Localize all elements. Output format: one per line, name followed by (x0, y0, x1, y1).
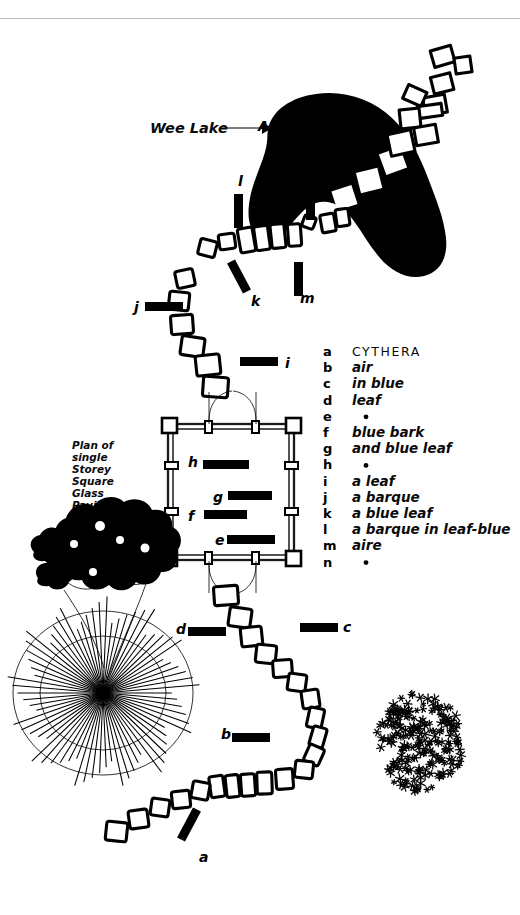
path-stone (105, 821, 128, 842)
legend-letter-i: i (323, 474, 327, 489)
marker-label-d: d (176, 621, 187, 637)
legend-letter-c: c (323, 376, 331, 391)
legend-letter-d: d (323, 393, 332, 408)
door-jamb (252, 421, 259, 433)
marker-label-c: c (343, 619, 352, 635)
legend-letter-b: b (323, 360, 332, 375)
marker-bar-i (240, 357, 278, 366)
pavilion-corner-post (286, 418, 301, 433)
path-stone (275, 768, 293, 789)
pavilion-mullion (285, 462, 298, 469)
marker-label-j: j (132, 299, 139, 315)
legend-letter-l: l (323, 522, 327, 537)
path-stone (218, 233, 236, 250)
wee-lake-label: Wee Lake (150, 120, 228, 136)
marker-bar-l (234, 194, 243, 228)
legend-text-g: and blue leaf (352, 440, 454, 456)
path-stone (257, 772, 273, 795)
sunburst-hub (96, 686, 110, 700)
legend-letter-h: h (323, 457, 332, 472)
shrub-lobe (122, 515, 142, 535)
shrub-lobe (115, 555, 137, 577)
plan-note-line-2: Storey (72, 463, 112, 475)
legend-letter-k: k (323, 506, 332, 521)
legend-text-l: a barque in leaf-blue (352, 521, 511, 537)
marker-bar-n (306, 186, 315, 220)
path-stone (270, 223, 286, 248)
path-stone (228, 607, 252, 629)
shrub-negative (70, 540, 78, 548)
marker-bar-c (300, 623, 338, 632)
path-stone (174, 268, 195, 288)
plan-note-line-4: Glass (72, 487, 104, 499)
legend-letter-f: f (323, 425, 329, 440)
marker-label-n: n (292, 185, 302, 201)
legend-text-j: a barque (352, 489, 420, 505)
path-stone (387, 130, 415, 157)
pavilion-mullion (165, 462, 178, 469)
marker-bar-d (188, 627, 226, 636)
legend-text-m: aire (352, 537, 382, 553)
marker-bar-h (203, 460, 249, 469)
door-jamb (252, 552, 259, 564)
path-stone (294, 760, 314, 779)
legend-text-b: air (352, 359, 374, 375)
door-jamb (205, 421, 212, 433)
marker-label-e: e (215, 532, 225, 548)
marker-bar-e (227, 535, 275, 544)
legend-letter-a: a (323, 344, 332, 359)
plan-note-line-1: single (72, 451, 108, 463)
marker-label-i: i (285, 355, 290, 371)
path-stone (195, 354, 221, 376)
marker-label-a: a (199, 849, 208, 865)
legend-letter-j: j (322, 490, 327, 505)
path-stone (335, 208, 350, 227)
legend-dot-h (364, 463, 369, 468)
site-plan-svg: Wee Lake A (0, 0, 520, 915)
path-stone (430, 45, 455, 67)
path-stone (197, 238, 217, 258)
shrub-negative (116, 536, 124, 544)
path-stone (191, 781, 211, 801)
marker-bar-j (145, 302, 183, 311)
path-stone (213, 585, 238, 606)
path-stone (240, 774, 256, 797)
pavilion-corner-post (162, 418, 177, 433)
pavilion-corner-post (286, 551, 301, 566)
path-stone (202, 376, 228, 398)
marker-bar-g (228, 491, 272, 500)
path-stone (414, 124, 439, 146)
legend-letter-g: g (323, 441, 332, 456)
marker-bar-f (204, 510, 247, 519)
path-stone (320, 213, 337, 233)
legend-dot-e (364, 414, 369, 419)
marker-label-m: m (300, 290, 315, 306)
legend-text-k: a blue leaf (352, 505, 434, 521)
drawing-sheet: Wee Lake A (0, 0, 520, 915)
legend-letter-m: m (323, 538, 337, 553)
plan-note-line-3: Square (72, 475, 114, 487)
legend-text-c: in blue (352, 375, 404, 391)
path-stone (253, 225, 270, 251)
lake-point-marker: A (257, 118, 269, 134)
marker-label-h: h (188, 454, 198, 470)
path-stone (171, 790, 191, 809)
marker-label-g: g (213, 489, 223, 505)
marker-label-b: b (221, 726, 231, 742)
path-stone (128, 809, 149, 829)
shrub-negative (89, 568, 97, 576)
legend-text-d: leaf (352, 392, 383, 408)
legend-text-f: blue bark (352, 424, 425, 440)
path-stone (454, 56, 472, 74)
marker-bar-b (232, 733, 270, 742)
pavilion-mullion (285, 508, 298, 515)
legend-dot-n (364, 560, 369, 565)
legend-text-i: a leaf (352, 473, 397, 489)
legend-letter-n: n (323, 555, 332, 570)
plan-note-line-0: Plan of (72, 439, 115, 451)
legend-letter-e: e (323, 409, 332, 424)
door-jamb (205, 552, 212, 564)
path-stone (225, 774, 240, 797)
shrub-negative (141, 544, 150, 553)
marker-label-l: l (238, 173, 243, 189)
